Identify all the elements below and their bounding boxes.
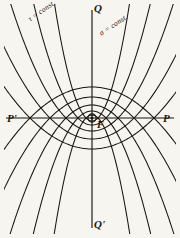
label-axis-p-right: P — [163, 113, 170, 124]
parabolic-coordinates-figure: τ = const. σ = const. Q Q' P' P F — [0, 0, 180, 238]
sigma-const-parabola-family — [0, 87, 180, 238]
figure-canvas — [0, 0, 180, 238]
tau-const-parabola-family — [0, 0, 180, 149]
label-axis-q-top: Q — [94, 3, 102, 14]
label-axis-p-left: P' — [7, 113, 17, 124]
sigma-const-curve — [0, 87, 180, 228]
label-axis-q-bottom: Q' — [94, 219, 105, 230]
tau-const-curve — [0, 8, 180, 149]
label-focus-f: F — [97, 120, 104, 130]
